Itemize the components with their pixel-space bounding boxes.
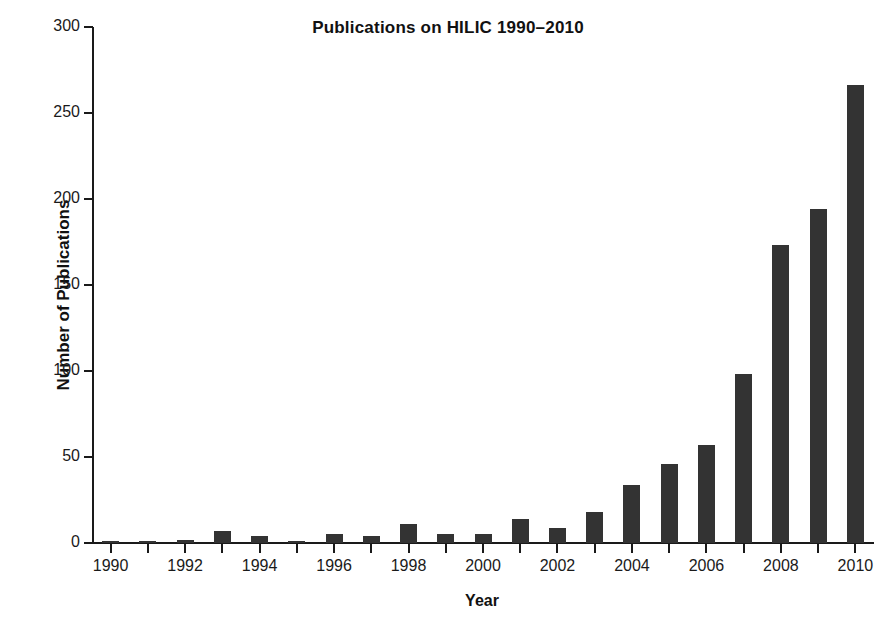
x-axis-tick <box>594 544 596 553</box>
bar <box>177 540 194 543</box>
x-axis-tick <box>147 544 149 553</box>
x-axis-tick-label: 2010 <box>825 558 885 574</box>
bar <box>102 541 119 543</box>
bar <box>698 445 715 543</box>
bar-series <box>92 27 874 543</box>
x-axis-tick-label: 2002 <box>527 558 587 574</box>
x-axis-tick <box>259 544 261 553</box>
bar <box>661 464 678 543</box>
x-axis-tick <box>482 544 484 553</box>
x-axis-tick <box>296 544 298 553</box>
x-axis-tick-label: 2008 <box>751 558 811 574</box>
x-axis-tick-label: 2000 <box>453 558 513 574</box>
bar <box>735 374 752 543</box>
y-axis-tick-label: 100 <box>36 362 80 378</box>
bar <box>623 485 640 543</box>
x-axis-tick <box>333 544 335 553</box>
x-axis-title: Year <box>92 592 872 610</box>
bar <box>847 85 864 543</box>
x-axis-tick-label: 1996 <box>304 558 364 574</box>
x-axis-tick <box>519 544 521 553</box>
x-axis-tick <box>705 544 707 553</box>
y-axis-tick-label: 250 <box>36 104 80 120</box>
bar <box>475 534 492 543</box>
x-axis-tick <box>854 544 856 553</box>
chart-figure: Publications on HILIC 1990–2010 Number o… <box>0 0 896 628</box>
bar <box>586 512 603 543</box>
x-axis-tick-label: 1998 <box>379 558 439 574</box>
bar <box>363 536 380 543</box>
bar <box>214 531 231 543</box>
bar <box>139 541 156 543</box>
bar <box>326 534 343 543</box>
x-axis-tick <box>445 544 447 553</box>
y-axis-tick-label: 0 <box>36 534 80 550</box>
y-axis-tick-labels: 050100150200250300 <box>30 0 80 628</box>
bar <box>251 536 268 543</box>
bar <box>512 519 529 543</box>
bar <box>288 541 305 543</box>
bar <box>437 534 454 543</box>
x-axis-tick <box>743 544 745 553</box>
x-axis-tick <box>221 544 223 553</box>
y-axis-tick-label: 50 <box>36 448 80 464</box>
y-axis-tick-label: 300 <box>36 18 80 34</box>
x-axis-tick-label: 2004 <box>602 558 662 574</box>
x-axis-tick-label: 1990 <box>81 558 141 574</box>
x-axis-tick <box>110 544 112 553</box>
x-axis-tick <box>668 544 670 553</box>
x-axis-tick <box>556 544 558 553</box>
bar <box>400 524 417 543</box>
y-axis-tick-label: 200 <box>36 190 80 206</box>
bar <box>549 528 566 543</box>
x-axis-tick <box>408 544 410 553</box>
x-axis-tick-label: 1992 <box>155 558 215 574</box>
x-axis-tick <box>631 544 633 553</box>
x-axis-tick <box>780 544 782 553</box>
bar <box>772 245 789 543</box>
x-axis-tick <box>817 544 819 553</box>
bar <box>810 209 827 543</box>
x-axis-tick <box>184 544 186 553</box>
x-axis-tick <box>370 544 372 553</box>
x-axis-tick-label: 2006 <box>676 558 736 574</box>
x-axis-tick-label: 1994 <box>230 558 290 574</box>
y-axis-tick-label: 150 <box>36 276 80 292</box>
